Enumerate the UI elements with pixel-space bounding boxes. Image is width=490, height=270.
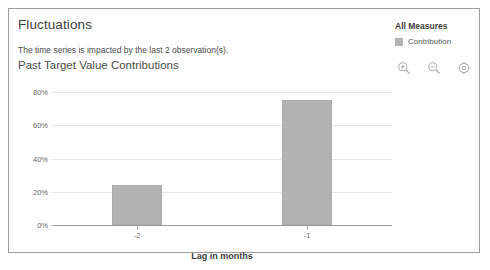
bar[interactable] [112, 185, 162, 225]
fluctuations-panel: Fluctuations The time series is impacted… [8, 8, 480, 253]
chart-title: Past Target Value Contributions [18, 59, 179, 71]
gridline [52, 159, 392, 160]
legend-item[interactable]: Contribution [395, 37, 481, 46]
x-axis-tick-mark [307, 225, 308, 229]
x-axis-tick-label: -1 [304, 231, 311, 240]
chart-legend: All Measures Contribution [395, 21, 481, 46]
page-title: Fluctuations [18, 17, 92, 32]
legend-items: Contribution [395, 37, 481, 46]
zoom-out-icon[interactable] [427, 61, 441, 75]
x-axis-line [52, 225, 392, 226]
bar[interactable] [282, 100, 332, 225]
bar-chart-plot: Lag in months 0%20%40%60%80%-2-1 [18, 79, 472, 247]
gridline [52, 192, 392, 193]
x-axis-title: Lag in months [52, 251, 392, 261]
gridline [52, 92, 392, 93]
x-axis-tick-mark [137, 225, 138, 229]
panel-subtitle: The time series is impacted by the last … [18, 45, 228, 55]
y-axis-tick-label: 60% [18, 121, 48, 130]
y-axis-tick-label: 20% [18, 187, 48, 196]
y-axis-tick-label: 0% [18, 221, 48, 230]
legend-title: All Measures [395, 21, 481, 31]
legend-item-label: Contribution [408, 37, 451, 46]
y-axis-tick-label: 80% [18, 88, 48, 97]
gear-icon[interactable] [457, 61, 471, 75]
gridline [52, 125, 392, 126]
legend-swatch [395, 38, 403, 46]
zoom-in-icon[interactable] [397, 61, 411, 75]
chart-toolbar [397, 61, 471, 75]
x-axis-tick-label: -2 [134, 231, 141, 240]
y-axis-tick-label: 40% [18, 154, 48, 163]
